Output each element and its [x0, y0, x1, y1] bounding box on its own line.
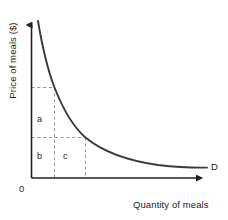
y-axis-label: Price of meals ($): [7, 11, 18, 111]
region-label-a: a: [37, 114, 42, 124]
region-label-c: c: [63, 151, 68, 161]
demand-curve-figure: Price of meals ($) Quantity of meals a b…: [0, 0, 228, 220]
reference-lines: [32, 88, 87, 179]
chart-canvas: [0, 0, 228, 220]
demand-curve: [38, 21, 207, 168]
region-label-b: b: [37, 151, 42, 161]
demand-curve-label: D: [211, 161, 218, 172]
x-axis-label: Quantity of meals: [133, 199, 209, 210]
origin-label: 0: [19, 183, 24, 194]
